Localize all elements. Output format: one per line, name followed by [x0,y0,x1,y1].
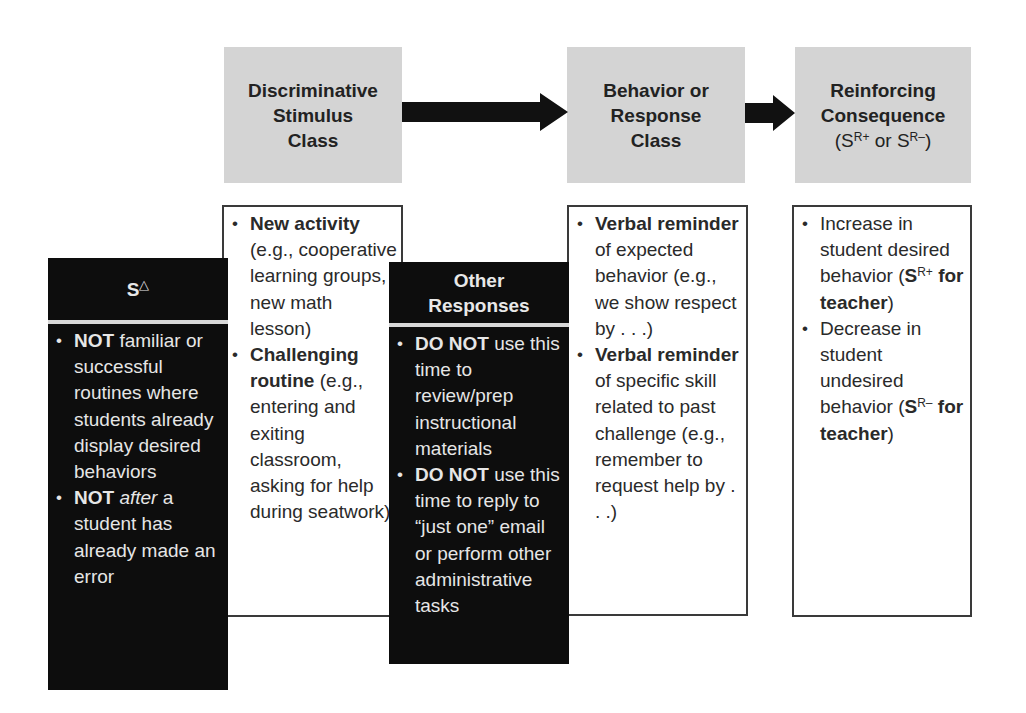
bold-term: DO NOT [415,333,489,354]
header-discriminative-stimulus-class: Discriminative Stimulus Class [224,47,402,183]
arrow-right-icon [402,93,568,131]
list-item: Verbal reminder of specific skill relate… [575,342,742,525]
bold-term: Verbal reminder [595,344,739,365]
header-line: Consequence [821,103,946,128]
sr-open: (S [835,130,854,151]
list-item: Challenging routine (e.g., entering and … [230,342,397,525]
other-responses-box: Other Responses DO NOT use this time to … [389,262,569,664]
header-line-sr-notation: (SR+ or SR–) [821,128,946,153]
header-line: Reinforcing [821,78,946,103]
sr-minus-superscript: R– [917,396,932,410]
sr-plus-superscript: R+ [917,265,933,279]
header-line: Behavior or [603,78,709,103]
s-delta-title: S△ [48,258,228,324]
list-item: DO NOT use this time to review/prep inst… [395,331,565,462]
list-item: New activity (e.g., cooperative learning… [230,211,397,342]
other-responses-title: Other Responses [389,262,569,327]
header-line: Class [603,128,709,153]
list-item: Decrease in student undesired behavior (… [800,316,966,447]
sr-plus-superscript: R+ [854,130,870,144]
header-line: Class [248,128,378,153]
bold-term: NOT [74,330,114,351]
list-item: NOT familiar or successful routines wher… [54,328,224,485]
item-text: use this time to reply to “just one” ema… [415,464,560,616]
bold-term: S [905,396,918,417]
s-delta-letter: S [127,279,140,300]
item-text: of expected behavior (e.g., we show resp… [595,239,737,339]
list-item: DO NOT use this time to reply to “just o… [395,462,565,619]
reinforcing-consequence-examples-box: Increase in student desired behavior (SR… [792,205,972,617]
bold-term: NOT [74,487,114,508]
list-item: NOT after a student has already made an … [54,485,224,590]
sr-minus-superscript: R– [910,130,925,144]
list-item: Verbal reminder of expected behavior (e.… [575,211,742,342]
title-line: Responses [428,293,529,318]
item-text: ) [888,423,894,444]
header-behavior-response-class: Behavior or Response Class [567,47,745,183]
list-item: Increase in student desired behavior (SR… [800,211,966,316]
item-text: (e.g., entering and exiting classroom, a… [250,370,390,522]
sr-close: ) [925,130,931,151]
item-text: familiar or successful routines where st… [74,330,213,482]
header-line: Stimulus [248,103,378,128]
item-text: ) [888,292,894,313]
sr-mid: or S [869,130,909,151]
item-text: of specific skill related to past challe… [595,370,735,522]
s-delta-box: S△ NOT familiar or successful routines w… [48,258,228,690]
arrow-right-icon [745,95,795,131]
discriminative-stimulus-examples-box: New activity (e.g., cooperative learning… [222,205,403,617]
italic-term: after [114,487,157,508]
bold-term: DO NOT [415,464,489,485]
bold-term: New activity [250,213,360,234]
header-line: Response [603,103,709,128]
header-reinforcing-consequence: Reinforcing Consequence (SR+ or SR–) [795,47,971,183]
header-line: Discriminative [248,78,378,103]
item-text: (e.g., cooperative learning groups, new … [250,239,397,339]
bold-term: S [905,265,918,286]
delta-triangle-icon: △ [139,277,149,292]
bold-term: Verbal reminder [595,213,739,234]
behavior-response-examples-box: Verbal reminder of expected behavior (e.… [567,205,748,616]
title-line: Other [428,268,529,293]
